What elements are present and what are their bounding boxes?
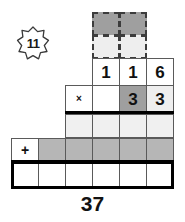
operator-cell-multiply: × [65,85,93,113]
digit-cell-multiplier-ones[interactable]: 3 [146,85,174,113]
partial-cell-r5c2[interactable] [65,138,93,162]
carry-cell-r1c3[interactable] [92,35,120,59]
partial-cell-r5c3[interactable] [92,138,120,162]
partial-cell-r5c1[interactable] [38,138,66,162]
digit-cell-multiplicand-hundreds[interactable]: 1 [92,58,120,86]
partial-cell-r5c5[interactable] [146,138,174,162]
operator-cell-plus: + [11,138,39,162]
carry-cell-r0c3[interactable] [92,12,120,36]
digit-cell-multiplier-tens[interactable]: 3 [119,85,147,113]
partial-cell-r4c4[interactable] [119,114,147,138]
digit-cell-multiplicand-tens[interactable]: 1 [119,58,147,86]
partial-cell-r4c3[interactable] [92,114,120,138]
carry-cell-r0c4[interactable] [119,12,147,36]
partial-cell-r4c5[interactable] [146,114,174,138]
sum-row-frame [11,161,174,189]
digit-cell-multiplier-hundreds[interactable] [92,85,120,113]
digit-cell-multiplicand-ones[interactable]: 6 [146,58,174,86]
carry-cell-r1c4[interactable] [119,35,147,59]
partial-cell-r4c2[interactable] [65,114,93,138]
total-value: 37 [0,192,185,216]
long-multiplication-grid: 1 1 6 × 3 3 + [0,0,185,190]
partial-cell-r5c4[interactable] [119,138,147,162]
